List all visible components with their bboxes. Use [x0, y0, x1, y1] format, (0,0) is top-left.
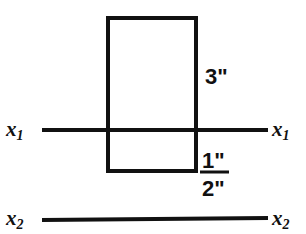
axis-line-x2: [42, 218, 268, 220]
axis-label-x2-right: x2: [272, 208, 290, 229]
axis-label-x1-right: x1: [272, 119, 290, 140]
axis-label-x2-right-letter: x: [272, 206, 283, 230]
axis-label-x1-right-subscript: 1: [283, 128, 290, 143]
dimension-label-flange: 1": [202, 150, 225, 172]
axis-label-x2-left-letter: x: [6, 206, 17, 230]
axis-label-x2-left: x2: [6, 208, 24, 229]
axis-label-x2-left-subscript: 2: [17, 217, 24, 232]
dimension-label-width: 2": [202, 178, 225, 200]
diagram-canvas: x1 x1 x2 x2 3" 1" 2": [0, 0, 306, 234]
axis-label-x1-left-letter: x: [6, 117, 17, 141]
axis-label-x1-left: x1: [6, 119, 24, 140]
axis-label-x2-right-subscript: 2: [283, 217, 290, 232]
dimension-label-height: 3": [205, 66, 228, 88]
axis-label-x1-left-subscript: 1: [17, 128, 24, 143]
axis-label-x1-right-letter: x: [272, 117, 283, 141]
cross-section-rectangle: [108, 18, 196, 171]
diagram-vector-layer: [0, 0, 306, 234]
